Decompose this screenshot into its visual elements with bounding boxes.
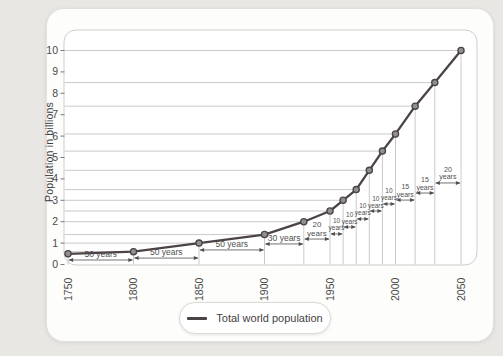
data-point <box>130 249 136 255</box>
data-point <box>327 208 333 214</box>
interval-label: 15 <box>421 176 429 183</box>
x-tick-label: 1800 <box>127 277 139 301</box>
interval-annotation: 30 years <box>265 233 303 246</box>
y-tick-label: 8 <box>52 87 58 99</box>
interval-label: years <box>329 224 346 232</box>
interval-label: 10 <box>385 187 393 194</box>
interval-label: 10 <box>346 211 354 218</box>
interval-label: years <box>342 218 359 226</box>
interval-label: 10 <box>359 202 367 209</box>
x-tick-label: 2000 <box>389 277 401 301</box>
data-point <box>392 131 398 137</box>
data-point <box>196 240 202 246</box>
data-point <box>412 103 418 109</box>
interval-label: 15 <box>401 183 409 190</box>
legend-line-swatch <box>187 317 207 320</box>
x-tick-label: 1950 <box>324 277 336 301</box>
interval-label: 30 years <box>268 233 301 243</box>
x-axis: 1750180018501900195020002050 <box>62 277 467 301</box>
data-point <box>432 80 438 86</box>
legend: Total world population <box>179 302 331 334</box>
legend-label: Total world population <box>216 312 322 324</box>
x-tick-label: 1900 <box>258 277 270 301</box>
data-point <box>353 187 359 193</box>
data-point <box>366 167 372 173</box>
y-tick-label: 0 <box>52 258 58 270</box>
interval-label: years <box>381 194 398 202</box>
y-tick-label: 1 <box>52 237 58 249</box>
interval-label: 10 <box>372 195 380 202</box>
interval-label: years <box>355 209 372 217</box>
interval-label: years <box>416 184 434 192</box>
x-tick-label: 2050 <box>455 277 467 301</box>
data-point <box>261 231 267 237</box>
data-point <box>379 148 385 154</box>
interval-label: years <box>307 229 327 238</box>
interval-label: 10 <box>333 217 341 224</box>
data-point <box>340 197 346 203</box>
interval-label: 20 <box>444 166 452 173</box>
y-tick-label: 9 <box>52 65 58 77</box>
y-axis-title: Population in billions <box>43 102 55 202</box>
y-tick-label: 2 <box>52 215 58 227</box>
x-tick-label: 1750 <box>62 277 74 301</box>
interval-label: years <box>397 191 415 199</box>
data-point <box>65 251 71 257</box>
interval-label: years <box>368 202 385 210</box>
interval-label: years <box>439 173 457 181</box>
x-tick-label: 1850 <box>193 277 205 301</box>
y-tick-label: 10 <box>46 44 58 56</box>
data-point <box>458 47 464 53</box>
data-point <box>301 219 307 225</box>
